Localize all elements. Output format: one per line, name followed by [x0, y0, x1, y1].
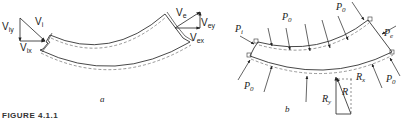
label-r: R — [341, 86, 348, 97]
figure-caption: FIGURE 4.1.1 — [2, 111, 58, 120]
panel-a: Viy Vi Vix Ve Vey Vex a — [2, 7, 216, 104]
label-v-ix: Vix — [20, 42, 32, 54]
label-v-i: Vi — [35, 16, 44, 28]
bend-pipe-diagram: Viy Vi Vix Ve Vey Vex a — [0, 0, 409, 120]
label-p0-top-right: P0 — [335, 1, 346, 14]
panel-b-sublabel: b — [285, 104, 290, 114]
panel-b: Pi P0 P0 Pe P0 P0 Rx R Ry b — [234, 1, 400, 114]
label-v-e: Ve — [176, 7, 187, 19]
label-v-iy: Viy — [2, 21, 14, 34]
label-r-y: Ry — [321, 93, 332, 106]
label-r-x: Rx — [355, 71, 366, 84]
label-v-ex: Vex — [190, 32, 205, 44]
label-p-i: Pi — [234, 23, 243, 36]
label-p0-top-left: P0 — [281, 11, 292, 24]
label-p0-bottom-right: P0 — [385, 73, 396, 86]
panel-a-sublabel: a — [100, 94, 105, 104]
label-v-ey: Vey — [201, 17, 216, 30]
label-p-e: Pe — [383, 27, 393, 40]
figure-4-1-1: Viy Vi Vix Ve Vey Vex a — [0, 0, 409, 120]
label-p0-bottom-left: P0 — [243, 80, 254, 93]
